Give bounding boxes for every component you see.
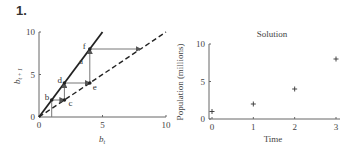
point-label-d: d [57,75,62,85]
right-x-tick-label: 0 [210,122,215,132]
data-point [334,57,339,62]
right-chart-title: Solution [257,29,288,39]
point-label-f: f [83,41,86,51]
right-x-tick-label: 1 [251,122,256,132]
cobweb-chart: 05100510 abcdef bt bt + 1 [12,27,171,145]
data-point [292,87,297,92]
point-label-b: b [45,92,50,102]
right-x-tick-label: 2 [292,122,297,132]
cobweb-point [63,98,67,102]
point-label-e: e [93,82,97,92]
left-x-tick-label: 10 [162,120,172,130]
point-label-c: c [68,98,72,108]
left-y-tick-label: 5 [31,70,36,80]
point-label-a: a [79,56,83,66]
left-y-label: bt + 1 [12,68,23,84]
cobweb-point [88,47,92,51]
left-x-tick-label: 5 [100,120,105,130]
right-x-label: Time [264,134,283,144]
left-y-tick-label: 10 [26,27,36,37]
right-y-tick-label: 10 [196,39,206,49]
data-point [251,102,256,107]
right-y-label: Population (millions) [175,44,185,121]
data-point [210,109,215,114]
right-x-tick-label: 3 [334,122,339,132]
left-x-label: bt [99,134,106,145]
cobweb-point [50,98,54,102]
cobweb-point [63,81,67,85]
right-y-tick-label: 5 [201,77,206,87]
figure: 05100510 abcdef bt bt + 1 Solution 01230… [0,0,343,154]
solution-chart: Solution 01230510 Time Population (milli… [175,29,340,144]
left-x-tick-label: 0 [37,120,42,130]
cobweb-point [88,81,92,85]
right-y-tick-label: 0 [201,114,206,124]
left-y-tick-label: 0 [31,112,36,122]
